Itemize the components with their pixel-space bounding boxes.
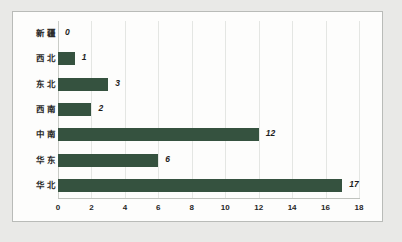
value-label: 3 bbox=[115, 78, 120, 88]
bar[interactable] bbox=[58, 52, 75, 65]
value-label: 1 bbox=[82, 52, 87, 62]
x-tick-label: 6 bbox=[156, 203, 160, 212]
x-tick-label: 2 bbox=[89, 203, 93, 212]
value-label: 0 bbox=[65, 27, 70, 37]
bar-row: 东北3 bbox=[58, 78, 359, 91]
gridline bbox=[359, 21, 360, 198]
value-label: 2 bbox=[98, 103, 103, 113]
x-tick-label: 18 bbox=[355, 203, 364, 212]
chart-figure: 新疆0西北1东北3西南2中南12华东6华北17 024681012141618 bbox=[12, 11, 383, 222]
value-label: 17 bbox=[349, 179, 358, 189]
x-tick-label: 8 bbox=[190, 203, 194, 212]
category-label: 华北 bbox=[0, 178, 57, 190]
value-label: 12 bbox=[266, 128, 275, 138]
bar[interactable] bbox=[58, 78, 108, 91]
bar[interactable] bbox=[58, 179, 342, 192]
category-label: 新疆 bbox=[0, 26, 57, 38]
bar-row: 华东6 bbox=[58, 154, 359, 167]
x-axis-line bbox=[58, 198, 360, 199]
x-tick-label: 4 bbox=[123, 203, 127, 212]
bar[interactable] bbox=[58, 154, 158, 167]
category-label: 西北 bbox=[0, 51, 57, 63]
bar-row: 新疆0 bbox=[58, 27, 359, 40]
plot-area: 新疆0西北1东北3西南2中南12华东6华北17 bbox=[58, 21, 359, 198]
x-tick-label: 14 bbox=[288, 203, 297, 212]
x-tick-label: 16 bbox=[321, 203, 330, 212]
x-tick-label: 0 bbox=[56, 203, 60, 212]
category-label: 西南 bbox=[0, 102, 57, 114]
category-label: 东北 bbox=[0, 77, 57, 89]
value-label: 6 bbox=[165, 154, 170, 164]
category-label: 华东 bbox=[0, 153, 57, 165]
x-tick-label: 12 bbox=[254, 203, 263, 212]
bar-row: 中南12 bbox=[58, 128, 359, 141]
bar-row: 华北17 bbox=[58, 179, 359, 192]
bar[interactable] bbox=[58, 103, 91, 116]
bar-row: 西南2 bbox=[58, 103, 359, 116]
category-label: 中南 bbox=[0, 127, 57, 139]
bar[interactable] bbox=[58, 128, 259, 141]
bar-row: 西北1 bbox=[58, 52, 359, 65]
x-tick-label: 10 bbox=[221, 203, 230, 212]
